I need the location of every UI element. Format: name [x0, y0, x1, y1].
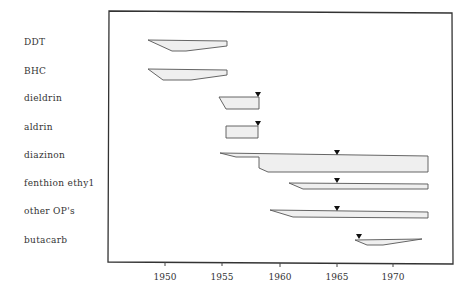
x-tick-1955: 1955 — [211, 272, 234, 282]
x-tick-1960: 1960 — [269, 272, 292, 282]
bar-fenthion — [289, 183, 428, 189]
chart-frame — [108, 11, 453, 264]
marker-other-ops — [334, 206, 340, 211]
bar-bhc — [148, 69, 227, 80]
marker-butacarb — [356, 234, 362, 239]
bar-aldrin — [226, 126, 258, 138]
timeline-chart — [0, 0, 463, 296]
marker-aldrin — [255, 121, 261, 126]
bar-other-ops — [270, 210, 428, 218]
x-tick-1970: 1970 — [382, 272, 405, 282]
marker-fenthion — [334, 178, 340, 183]
marker-dieldrin — [255, 92, 261, 97]
bar-ddt — [148, 40, 227, 51]
bar-diazinon — [220, 153, 428, 172]
x-tick-1950: 1950 — [154, 272, 177, 282]
bar-dieldrin — [219, 97, 259, 109]
bar-butacarb — [355, 239, 422, 245]
x-tick-1965: 1965 — [326, 272, 349, 282]
